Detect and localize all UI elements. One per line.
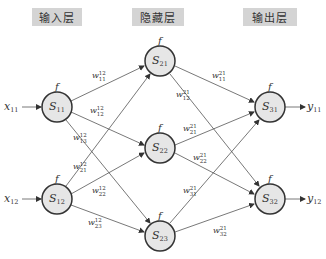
output-arrow-y11: y11: [285, 100, 322, 114]
weights-input-hidden: w1211 w1212 w1213 w1221 w1222 w1223: [73, 70, 106, 229]
node-s31: f S31: [255, 81, 285, 122]
output-arrow-y12: y12: [285, 192, 322, 206]
node-s11: f S11: [42, 81, 72, 122]
svg-text:f: f: [54, 173, 61, 184]
svg-text:x11: x11: [4, 100, 19, 114]
weights-hidden-output: w2111 w2112 w2121 w2122 w2131 w2132: [176, 70, 227, 237]
svg-text:f: f: [267, 81, 274, 92]
svg-text:w2111: w2111: [212, 70, 226, 82]
svg-text:w2122: w2122: [193, 152, 207, 164]
edges-input-hidden: [66, 66, 150, 232]
node-s22: f S22: [145, 122, 175, 163]
node-s23: f S23: [145, 210, 175, 251]
svg-text:w2121: w2121: [183, 123, 197, 135]
svg-text:f: f: [267, 173, 274, 184]
svg-text:w1211: w1211: [92, 70, 106, 82]
svg-text:f: f: [157, 210, 164, 221]
svg-text:f: f: [157, 122, 164, 133]
input-arrow-x12: x12: [4, 192, 41, 206]
svg-text:w1212: w1212: [90, 105, 104, 117]
svg-text:w2132: w2132: [213, 225, 227, 237]
svg-text:y12: y12: [306, 192, 322, 206]
svg-text:w2131: w2131: [183, 185, 197, 197]
svg-text:w1223: w1223: [88, 217, 102, 229]
svg-text:x12: x12: [4, 192, 19, 206]
node-s21: f S21: [145, 35, 175, 76]
svg-text:f: f: [54, 81, 61, 92]
svg-text:w1222: w1222: [92, 185, 106, 197]
neural-network-diagram: x11 x12 y11 y12 w1211 w1212 w1213 w1221 …: [0, 0, 326, 259]
svg-text:w1213: w1213: [73, 132, 87, 144]
svg-text:f: f: [157, 35, 164, 46]
node-s32: f S32: [255, 173, 285, 214]
svg-text:w1221: w1221: [73, 161, 87, 173]
input-arrow-x11: x11: [4, 100, 41, 114]
svg-text:y11: y11: [306, 100, 322, 114]
node-s12: f S12: [42, 173, 72, 214]
svg-text:w2112: w2112: [176, 89, 190, 101]
